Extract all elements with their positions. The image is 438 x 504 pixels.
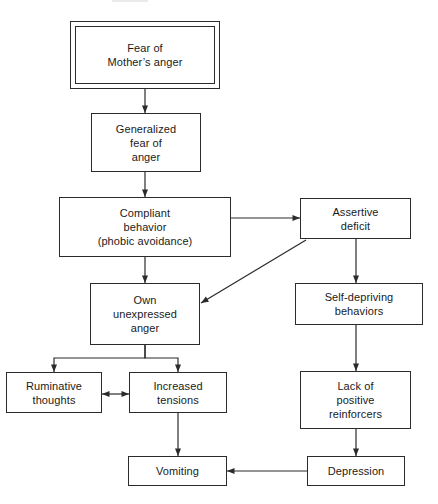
arrowhead-edge-compliant-to-own-anger-end xyxy=(142,276,148,284)
arrowhead-edge-self-depriving-to-lack-end xyxy=(353,364,359,372)
connector-edge-generalized-to-compliant xyxy=(142,172,148,197)
arrowhead-edge-ruminative-increased-bidirectional-start xyxy=(102,391,110,397)
node-label-lack-of-positive-reinforcers: Lack of positive reinforcers xyxy=(325,379,386,421)
node-label-compliant-behavior: Compliant behavior (phobic avoidance) xyxy=(94,206,197,248)
connector-edge-fear-to-generalized xyxy=(142,89,148,113)
connector-edge-ruminative-increased-bidirectional xyxy=(102,391,129,397)
connector-edge-lack-to-depression xyxy=(353,429,359,456)
arrowhead-edge-depression-to-vomiting-end xyxy=(227,468,235,474)
node-label-increased-tensions: Increased tensions xyxy=(149,379,206,407)
arrowhead-edge-own-anger-to-ruminative-end xyxy=(51,365,57,373)
arrowhead-edge-fear-to-generalized-end xyxy=(142,106,148,114)
connector-edge-increased-tensions-to-vomiting xyxy=(175,413,181,456)
node-ruminative-thoughts: Ruminative thoughts xyxy=(6,372,102,413)
connector-edge-assertive-to-self-depriving xyxy=(353,239,359,283)
connector-edge-compliant-to-own-anger xyxy=(142,257,148,283)
node-label-own-unexpressed-anger: Own unexpressed anger xyxy=(109,293,181,335)
node-generalized-fear-of-anger: Generalized fear of anger xyxy=(91,113,201,172)
node-self-depriving-behaviors: Self-depriving behaviors xyxy=(295,283,423,325)
arrowhead-edge-own-anger-to-increased-tensions-end xyxy=(175,365,181,373)
node-label-fear-of-mothers-anger: Fear of Mother’s anger xyxy=(104,41,187,69)
connector-line-edge-own-anger-to-ruminative xyxy=(54,345,145,372)
node-label-generalized-fear-of-anger: Generalized fear of anger xyxy=(112,122,180,164)
node-increased-tensions: Increased tensions xyxy=(129,372,227,413)
node-compliant-behavior: Compliant behavior (phobic avoidance) xyxy=(59,197,231,257)
connector-edge-self-depriving-to-lack xyxy=(353,325,359,371)
connector-edge-own-anger-to-ruminative xyxy=(51,345,145,372)
node-vomiting: Vomiting xyxy=(128,456,227,486)
scan-artifact xyxy=(112,0,148,2)
arrowhead-edge-assertive-to-self-depriving-end xyxy=(353,276,359,284)
node-label-vomiting: Vomiting xyxy=(152,464,203,478)
node-label-self-depriving-behaviors: Self-depriving behaviors xyxy=(321,290,398,318)
connector-edge-own-anger-to-increased-tensions xyxy=(145,345,181,372)
arrowhead-edge-compliant-to-assertive-end xyxy=(293,215,301,221)
node-label-depression: Depression xyxy=(324,464,389,478)
node-fear-of-mothers-anger: Fear of Mother’s anger xyxy=(70,21,220,89)
arrowhead-edge-ruminative-increased-bidirectional-end xyxy=(122,391,130,397)
node-depression: Depression xyxy=(307,456,405,486)
connector-edge-depression-to-vomiting xyxy=(227,468,307,474)
flowchart-canvas: Fear of Mother’s angerGeneralized fear o… xyxy=(0,0,438,504)
connector-edge-compliant-to-assertive xyxy=(231,215,300,221)
arrowhead-edge-generalized-to-compliant-end xyxy=(142,190,148,198)
arrowhead-edge-lack-to-depression-end xyxy=(353,449,359,457)
node-inner-frame-fear-of-mothers-anger: Fear of Mother’s anger xyxy=(75,26,215,84)
connector-line-edge-own-anger-to-increased-tensions xyxy=(145,345,178,372)
node-label-ruminative-thoughts: Ruminative thoughts xyxy=(22,379,86,407)
node-lack-of-positive-reinforcers: Lack of positive reinforcers xyxy=(300,371,411,429)
arrowhead-edge-increased-tensions-to-vomiting-end xyxy=(175,449,181,457)
arrowhead-edge-assertive-to-own-anger-end xyxy=(201,297,209,303)
node-label-assertive-deficit: Assertive deficit xyxy=(328,205,382,233)
node-own-unexpressed-anger: Own unexpressed anger xyxy=(90,283,200,345)
node-assertive-deficit: Assertive deficit xyxy=(300,198,411,239)
